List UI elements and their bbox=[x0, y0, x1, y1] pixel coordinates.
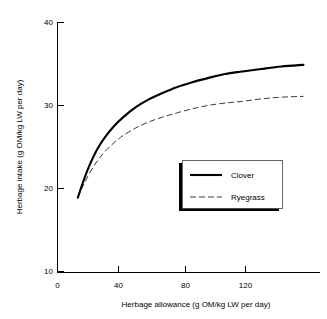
chart-container: 40 30 20 10 0 40 80 120 Herbage allowanc… bbox=[0, 0, 327, 319]
y-axis-title: Herbage intake (g OM/kg LW per day) bbox=[15, 79, 24, 214]
y-tick-label-20: 20 bbox=[44, 184, 53, 193]
x-axis-title: Herbage allowance (g OM/kg LW per day) bbox=[122, 300, 271, 309]
legend-label-clover: Clover bbox=[231, 171, 254, 180]
y-tick-label-10: 10 bbox=[44, 267, 53, 276]
y-axis-ticks: 40 30 20 10 bbox=[44, 18, 64, 276]
legend-label-ryegrass: Ryegrass bbox=[231, 193, 265, 202]
x-tick-label-120: 120 bbox=[239, 281, 253, 290]
x-tick-label-0: 0 bbox=[55, 281, 60, 290]
y-tick-label-30: 30 bbox=[44, 101, 53, 110]
x-tick-label-80: 80 bbox=[181, 281, 190, 290]
y-tick-label-40: 40 bbox=[44, 18, 53, 27]
legend: Clover Ryegrass bbox=[179, 160, 282, 211]
axes-group bbox=[58, 22, 321, 273]
x-axis-ticks: 0 40 80 120 bbox=[55, 266, 252, 290]
line-chart: 40 30 20 10 0 40 80 120 Herbage allowanc… bbox=[0, 0, 327, 319]
x-tick-label-40: 40 bbox=[114, 281, 123, 290]
